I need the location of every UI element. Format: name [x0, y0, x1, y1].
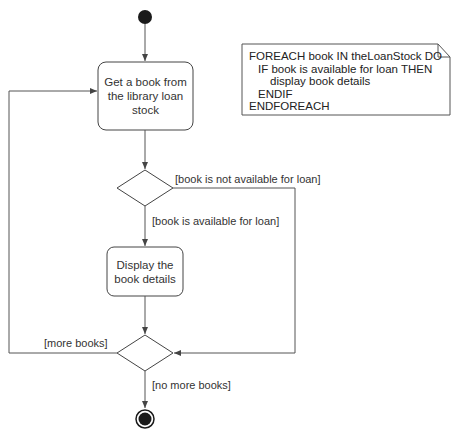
activity-get-book-line-1: Get a book from — [98, 75, 193, 89]
note-line-4: ENDIF — [249, 88, 442, 101]
activity-get-book-line-2: the library loan — [98, 89, 193, 103]
note-line-1: FOREACH book IN theLoanStock DO — [249, 50, 442, 63]
flow-not-available — [173, 188, 295, 353]
activity-get-book-line-3: stock — [98, 103, 193, 117]
initial-node — [138, 10, 152, 24]
activity-display-line-2: book details — [107, 272, 183, 286]
activity-get-book-label: Get a book from the library loan stock — [98, 75, 193, 117]
note-line-3: display book details — [249, 75, 442, 88]
final-node-inner — [139, 413, 152, 426]
note-pseudocode: FOREACH book IN theLoanStock DOIF book i… — [249, 50, 442, 113]
flow-more-books-loop — [9, 91, 117, 353]
guard-not-available: [book is not available for loan] — [175, 173, 321, 186]
note-line-5: ENDFOREACH — [249, 100, 442, 113]
activity-display-details-label: Display the book details — [107, 258, 183, 286]
note-line-2: IF book is available for loan THEN — [249, 63, 442, 76]
guard-more-books: [more books] — [44, 337, 108, 350]
activity-display-line-1: Display the — [107, 258, 183, 272]
guard-available: [book is available for loan] — [152, 215, 279, 228]
decision-availability — [117, 170, 173, 206]
decision-more-books — [117, 335, 173, 371]
guard-no-more-books: [no more books] — [152, 379, 231, 392]
